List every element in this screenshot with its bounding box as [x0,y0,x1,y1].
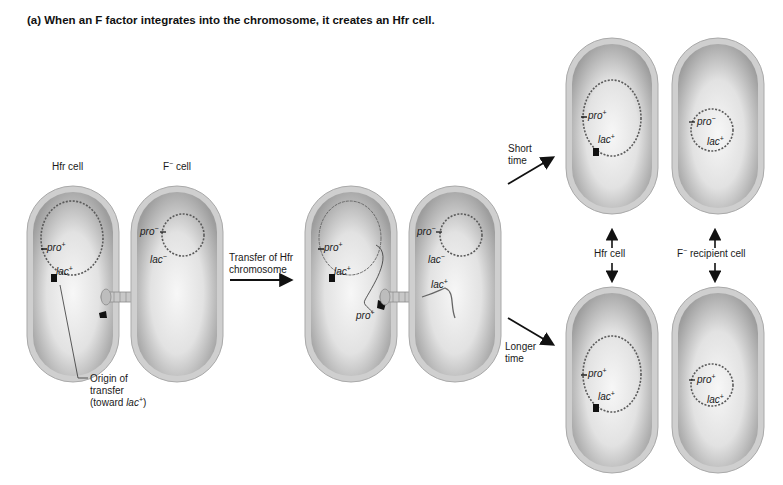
hfr-cell-top-right: pro+ lac+ [566,38,658,214]
recipient-cell-top-right: pro− lac+ [672,38,764,214]
transfer-label-2: chromosome [229,264,287,275]
transfer-label-1: Transfer of Hfr [229,252,294,263]
hfr-cell-middle: pro+ lac+ pro+ [305,186,397,382]
origin-label-1: Origin of [90,373,128,384]
origin-label-2: transfer [90,385,125,396]
longer-time-label-2: time [505,353,524,364]
hfr-cell-label: Hfr cell [52,161,83,172]
origin-label-3: (toward lac+) [90,396,146,408]
conjugation-diagram: pro+ lac+ Hfr cell pro− lac− F− cell Ori… [0,0,783,485]
recipient-cell-middle: pro− lac− lac+ [409,186,501,382]
hfr-cell-bottom-right: pro+ lac+ [566,287,658,473]
fminus-cell-label: F− cell [163,160,191,172]
recipient-cell-bottom-right: pro+ lac+ [672,287,764,473]
short-time-label-1: Short [508,143,532,154]
recipient-cell-right-label: F− recipient cell [677,247,746,259]
longer-time-label-1: Longer [505,341,537,352]
fminus-cell-left: pro− lac− [131,186,223,382]
hfr-cell-right-label: Hfr cell [594,248,625,259]
short-time-label-2: time [508,155,527,166]
